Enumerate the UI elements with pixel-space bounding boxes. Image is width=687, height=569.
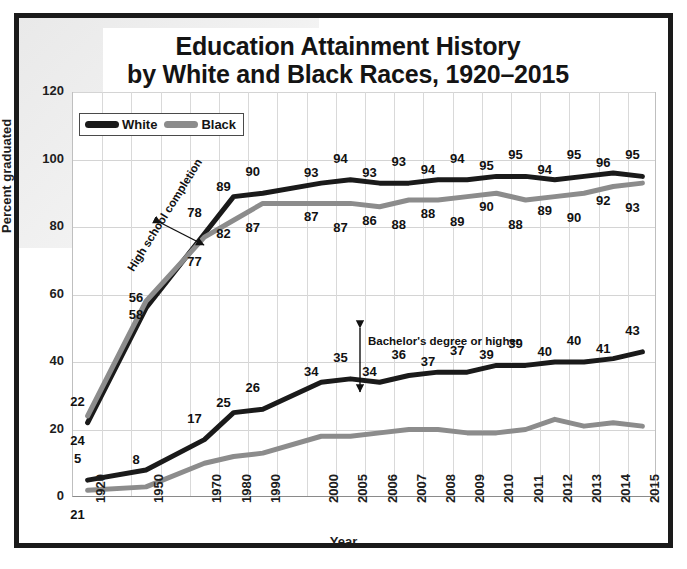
legend-label-black: Black (201, 117, 236, 132)
label-black-hs: 87 (304, 209, 318, 224)
label-white-ba: 5 (74, 451, 81, 466)
label-black-hs: 89 (450, 213, 464, 228)
x-tick-label: 2013 (589, 474, 604, 503)
chart-legend: White Black (79, 113, 244, 136)
chart-title-line-1: Education Attainment History (109, 32, 587, 60)
y-tick-label: 100 (22, 151, 64, 166)
x-tick-label: 1980 (239, 474, 254, 503)
x-axis-title: Year (19, 534, 668, 549)
label-white-ba: 8 (132, 452, 139, 467)
legend-item-white: White (85, 117, 157, 132)
label-white-ba: 43 (625, 322, 639, 337)
legend-item-black: Black (164, 117, 236, 132)
label-white-ba: 17 (187, 410, 201, 425)
y-axis-title: Percent graduated (0, 119, 14, 233)
y-tick-label: 120 (22, 83, 64, 98)
label-white-ba: 25 (216, 394, 230, 409)
x-tick-label: 2010 (501, 474, 516, 503)
label-black-hs: 88 (508, 217, 522, 232)
x-tick-label: 1920 (93, 474, 108, 503)
x-tick-label: 2000 (326, 474, 341, 503)
label-black-hs: 89 (538, 202, 552, 217)
label-black-hs: 88 (421, 206, 435, 221)
label-black-hs: 82 (216, 226, 230, 241)
label-white-hs: 93 (304, 165, 318, 180)
label-white-ba: 40 (567, 333, 581, 348)
label-white-hs: 94 (421, 161, 435, 176)
plot-area: 2256788990939493939494959594959695245877… (72, 92, 656, 497)
y-tick-label: 0 (22, 488, 64, 503)
label-white-hs: 93 (392, 154, 406, 169)
label-white-ba: 36 (392, 346, 406, 361)
label-black-hs: 92 (596, 192, 610, 207)
label-white-hs: 94 (333, 150, 347, 165)
label-white-hs: 94 (450, 150, 464, 165)
x-tick-label: 2009 (472, 474, 487, 503)
y-tick-label: 80 (22, 218, 64, 233)
x-tick-label: 1970 (209, 474, 224, 503)
legend-label-white: White (122, 117, 157, 132)
label-white-hs: 96 (596, 155, 610, 170)
label-black-hs: 90 (567, 210, 581, 225)
chart-frame: Education Attainment History by White an… (14, 13, 673, 548)
high-school-completion-arrow (161, 223, 204, 245)
chart-title: Education Attainment History by White an… (103, 28, 593, 94)
label-black-hs: 90 (479, 199, 493, 214)
x-tick-label: 2012 (560, 474, 575, 503)
label-white-ba: 35 (333, 349, 347, 364)
label-black-hs: 93 (625, 200, 639, 215)
label-black-hs: 24 (70, 433, 84, 448)
label-white-ba: 34 (304, 364, 318, 379)
label-white-hs: 22 (70, 393, 84, 408)
label-white-hs: 94 (538, 161, 552, 176)
label-white-hs: 56 (129, 290, 143, 305)
label-white-hs: 95 (567, 147, 581, 162)
label-white-ba: 34 (362, 364, 376, 379)
annotation-bachelors-degree: Bachelor's degree or higher (368, 335, 520, 347)
label-black-hs: 77 (187, 254, 201, 269)
x-tick-label: 2015 (647, 474, 662, 503)
label-white-ba: 40 (538, 344, 552, 359)
x-tick-label: 2008 (443, 474, 458, 503)
label-white-hs: 78 (187, 204, 201, 219)
label-white-ba: 26 (246, 380, 260, 395)
legend-swatch-white (85, 121, 119, 128)
label-white-hs: 95 (479, 158, 493, 173)
x-tick-label: 2014 (618, 474, 633, 503)
label-white-hs: 95 (625, 147, 639, 162)
label-black-hs: 87 (246, 220, 260, 235)
label-white-hs: 95 (508, 147, 522, 162)
label-white-ba: 37 (421, 354, 435, 369)
y-tick-label: 20 (22, 421, 64, 436)
label-white-ba: 41 (596, 340, 610, 355)
label-black-hs: 88 (392, 217, 406, 232)
label-white-hs: 93 (362, 165, 376, 180)
label-black-hs: 86 (362, 212, 376, 227)
y-tick-label: 60 (22, 286, 64, 301)
label-white-hs: 90 (246, 164, 260, 179)
label-black-ba: 21 (70, 507, 84, 522)
label-white-ba: 39 (479, 347, 493, 362)
chart-title-line-2: by White and Black Races, 1920–2015 (109, 60, 587, 88)
x-tick-label: 2011 (531, 475, 546, 503)
legend-swatch-black (164, 121, 198, 128)
label-black-hs: 87 (333, 220, 347, 235)
x-tick-label: 2006 (385, 474, 400, 503)
y-tick-label: 40 (22, 353, 64, 368)
x-tick-label: 1950 (151, 474, 166, 503)
x-tick-label: 2005 (355, 474, 370, 503)
x-tick-label: 1990 (268, 474, 283, 503)
label-white-hs: 89 (216, 178, 230, 193)
x-tick-label: 2007 (414, 474, 429, 503)
label-black-hs: 58 (129, 307, 143, 322)
